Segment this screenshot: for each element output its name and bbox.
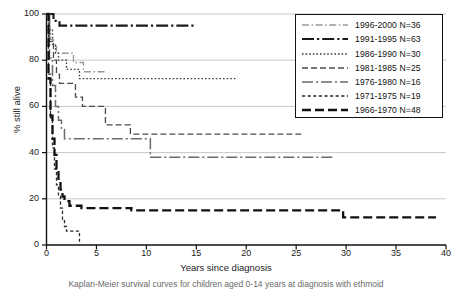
- legend-line-swatch: [302, 33, 348, 45]
- legend-line-swatch: [302, 19, 348, 31]
- y-tick-label: 20: [13, 193, 39, 203]
- y-tick-label: 60: [13, 100, 39, 110]
- legend-item: 1996-2000 N=36: [296, 18, 444, 33]
- legend-line-swatch: [302, 62, 348, 74]
- legend-item: 1966-1970 N=48: [296, 103, 444, 118]
- survival-curve-1991-1995: [47, 14, 195, 26]
- x-axis-label: Years since diagnosis: [0, 262, 452, 273]
- legend-line-swatch: [302, 104, 348, 116]
- x-tick-label: 40: [434, 248, 452, 258]
- x-tick-label: 20: [234, 248, 258, 258]
- survival-curve-1986-1990: [47, 14, 237, 79]
- chart-legend: 1996-2000 N=361991-1995 N=631986-1990 N=…: [295, 14, 443, 118]
- legend-item-label: 1976-1980 N=16: [355, 77, 421, 87]
- x-tick-label: 5: [84, 248, 108, 258]
- figure-caption: Kaplan-Meier survival curves for childre…: [0, 279, 452, 289]
- legend-item-label: 1996-2000 N=36: [355, 20, 421, 30]
- y-tick-label: 40: [13, 147, 39, 157]
- legend-item-label: 1991-1995 N=63: [355, 34, 421, 44]
- x-tick-label: 35: [384, 248, 408, 258]
- legend-item: 1976-1980 N=16: [296, 75, 444, 90]
- survival-curve-1981-1985: [47, 14, 302, 134]
- legend-line-swatch: [302, 90, 348, 102]
- y-tick-label: 100: [13, 8, 39, 18]
- legend-item: 1991-1995 N=63: [296, 32, 444, 47]
- legend-item: 1981-1985 N=25: [296, 61, 444, 76]
- legend-item-label: 1971-1975 N=19: [355, 91, 421, 101]
- y-tick-label: 0: [13, 239, 39, 249]
- x-tick-label: 30: [334, 248, 358, 258]
- legend-line-swatch: [302, 76, 348, 88]
- legend-item-label: 1981-1985 N=25: [355, 63, 421, 73]
- legend-item-label: 1986-1990 N=30: [355, 49, 421, 59]
- x-tick-label: 10: [134, 248, 158, 258]
- survival-curve-1996-2000: [47, 14, 107, 72]
- legend-item: 1986-1990 N=30: [296, 46, 444, 61]
- legend-item: 1971-1975 N=19: [296, 89, 444, 104]
- y-tick-label: 80: [13, 54, 39, 64]
- x-tick-label: 15: [184, 248, 208, 258]
- x-tick-label: 0: [35, 248, 59, 258]
- x-tick-label: 25: [284, 248, 308, 258]
- legend-line-swatch: [302, 48, 348, 60]
- survival-curve-1976-1980: [47, 14, 335, 157]
- legend-item-label: 1966-1970 N=48: [355, 105, 421, 115]
